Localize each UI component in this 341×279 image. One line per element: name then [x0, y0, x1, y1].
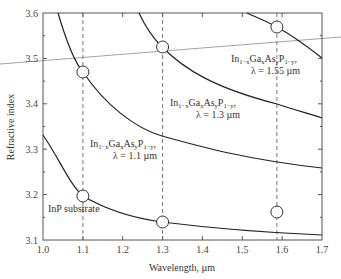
- annotation-1-3um: In1−xGaxAsyP1−y, λ = 1.3 µm: [170, 97, 240, 120]
- marker: [77, 66, 89, 78]
- annotation-1-55um: In1−xGaxAsyP1−y, λ = 1.55 µm: [231, 53, 300, 76]
- svg-text:1.2: 1.2: [116, 244, 129, 255]
- curve-1-55um: [247, 13, 322, 58]
- svg-text:In1−xGaxAsyP1−y,: In1−xGaxAsyP1−y,: [90, 138, 156, 150]
- svg-text:3.3: 3.3: [26, 144, 39, 155]
- svg-text:In1−xGaxAsyP1−y,: In1−xGaxAsyP1−y,: [231, 53, 297, 65]
- y-tick-labels: 3.1 3.2 3.3 3.4 3.5 3.6: [26, 8, 39, 246]
- y-axis-title: Refractive index: [5, 94, 16, 160]
- svg-text:1.3: 1.3: [156, 244, 169, 255]
- svg-text:1.4: 1.4: [196, 244, 209, 255]
- svg-text:3.6: 3.6: [26, 8, 39, 19]
- svg-text:λ = 1.1 µm: λ = 1.1 µm: [113, 150, 157, 161]
- marker: [271, 206, 283, 218]
- svg-text:3.2: 3.2: [26, 189, 39, 200]
- refractive-index-chart: 3.1 3.2 3.3 3.4 3.5 3.6 1.0 1.1 1.2 1.3 …: [0, 0, 341, 279]
- svg-text:1.6: 1.6: [276, 244, 289, 255]
- x-axis-title: Wavelength, µm: [149, 262, 215, 273]
- marker: [271, 21, 283, 33]
- svg-text:In1−xGaxAsyP1−y,: In1−xGaxAsyP1−y,: [170, 97, 236, 109]
- svg-text:λ = 1.3 µm: λ = 1.3 µm: [196, 109, 240, 120]
- svg-text:3.4: 3.4: [26, 98, 39, 109]
- x-tick-labels: 1.0 1.1 1.2 1.3 1.4 1.5 1.6 1.7: [37, 244, 329, 255]
- marker: [157, 216, 169, 228]
- svg-text:3.5: 3.5: [26, 53, 39, 64]
- marker: [77, 190, 89, 202]
- wavelength-reference-lines: [83, 13, 277, 240]
- x-ticks: [83, 13, 282, 240]
- curve-inp-substrate: [43, 135, 322, 235]
- annotation-1-1um: In1−xGaxAsyP1−y, λ = 1.1 µm: [90, 138, 157, 161]
- annotation-inp-substrate: InP substrate: [48, 203, 100, 214]
- marker: [157, 41, 169, 53]
- svg-text:1.0: 1.0: [37, 244, 50, 255]
- svg-text:1.1: 1.1: [77, 244, 90, 255]
- svg-text:λ = 1.55 µm: λ = 1.55 µm: [251, 65, 300, 76]
- svg-text:1.7: 1.7: [316, 244, 329, 255]
- svg-text:1.5: 1.5: [236, 244, 249, 255]
